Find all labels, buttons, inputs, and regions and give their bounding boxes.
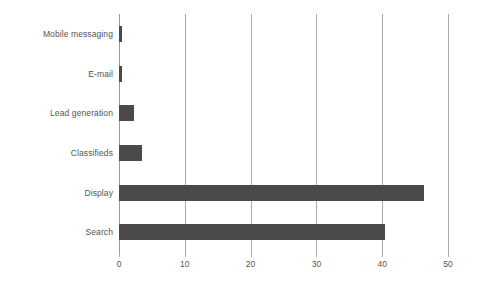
bar [119,105,134,121]
bar [119,26,122,42]
x-axis-tick-label: 10 [165,259,205,269]
bar [119,185,424,201]
x-axis-tick-label: 40 [362,259,402,269]
y-axis-category-labels: Mobile messagingE-mailLead generationCla… [0,14,113,252]
bar-chart: Mobile messagingE-mailLead generationCla… [0,0,479,284]
gridline-10 [185,14,186,252]
x-axis-tick-label: 30 [296,259,336,269]
x-axis: 01020304050 [119,252,448,280]
y-axis-tick-label: Display [0,188,113,198]
gridline-40 [382,14,383,252]
x-axis-tick-mark [185,252,186,257]
gridline-30 [316,14,317,252]
y-axis-tick-label: Mobile messaging [0,29,113,39]
x-axis-tick-label: 50 [428,259,468,269]
gridline-50 [448,14,449,252]
x-axis-tick-label: 0 [99,259,139,269]
plot-area [119,14,448,252]
x-axis-tick-mark [448,252,449,257]
y-axis-tick-label: Lead generation [0,108,113,118]
y-axis-tick-label: E-mail [0,69,113,79]
y-axis-tick-label: Classifieds [0,148,113,158]
bar [119,66,122,82]
y-axis-tick-label: Search [0,227,113,237]
x-axis-tick-mark [251,252,252,257]
x-axis-tick-mark [382,252,383,257]
x-axis-tick-mark [316,252,317,257]
gridline-20 [251,14,252,252]
x-axis-tick-label: 20 [231,259,271,269]
axis-line-zero [119,14,120,252]
bar [119,224,385,240]
bar [119,145,142,161]
x-axis-tick-mark [119,252,120,257]
